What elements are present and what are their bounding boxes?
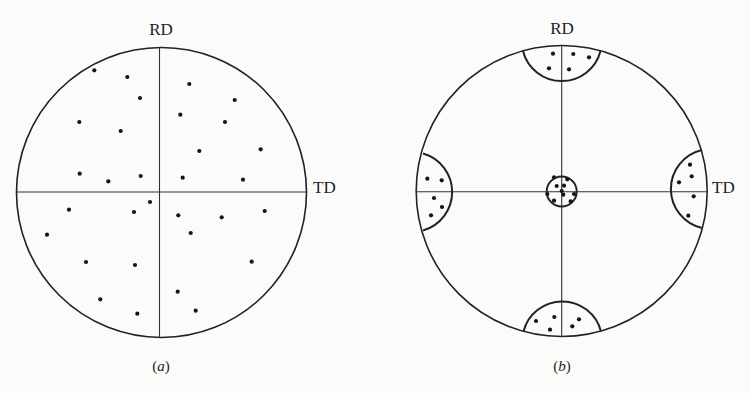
pole-figure-diagram: RD TD (a) RD TD (b) (0, 0, 750, 393)
pole-dot (98, 297, 102, 301)
pole-dot (176, 213, 180, 217)
pole-dot-center (545, 192, 549, 196)
pole-dot-top (567, 67, 571, 71)
pole-dot (133, 263, 137, 267)
caption-b: (b) (553, 358, 571, 375)
pole-dot (84, 260, 88, 264)
pole-dot-left (425, 177, 429, 181)
pole-dot-left (440, 178, 444, 182)
pole-dot (263, 209, 267, 213)
pole-dot-center (561, 193, 565, 197)
pole-dot (189, 231, 193, 235)
pole-dot (132, 210, 136, 214)
pole-dot (178, 113, 182, 117)
pole-dot (125, 75, 129, 79)
pole-dot-bottom (552, 315, 556, 319)
td-label-a: TD (313, 178, 336, 197)
pole-dot-center (552, 199, 556, 203)
pole-figure-b: RD TD (b) (416, 19, 734, 375)
pole-dot-center (569, 199, 573, 203)
caption-a: (a) (152, 358, 170, 375)
pole-dot (92, 68, 96, 72)
pole-dot (119, 129, 123, 133)
pole-dot (67, 208, 71, 212)
pole-dot (45, 233, 49, 237)
td-label-b: TD (712, 178, 735, 197)
pole-dot-bottom (548, 328, 552, 332)
pole-dot (138, 96, 142, 100)
pole-dot-top (551, 52, 555, 56)
caption-b-letter: b (558, 358, 566, 374)
pole-dot-center (562, 184, 566, 188)
pole-dot-left (429, 213, 433, 217)
pole-dot-left (440, 205, 444, 209)
pole-dot-center (560, 189, 564, 193)
pole-dot (223, 120, 227, 124)
pole-dot (148, 200, 152, 204)
pole-dot-center (572, 192, 576, 196)
pole-dot (250, 260, 254, 264)
pole-dot-right (688, 163, 692, 167)
pole-dot (233, 98, 237, 102)
pole-dot-top (571, 52, 575, 56)
caption-a-letter: a (157, 358, 165, 374)
pole-dot-right (690, 174, 694, 178)
pole-dot (78, 172, 82, 176)
pole-dot (194, 309, 198, 313)
pole-dot-right (677, 180, 681, 184)
rd-label-a: RD (149, 20, 173, 39)
pole-dot-top (587, 55, 591, 59)
pole-dot-top (547, 66, 551, 70)
rd-label-b: RD (550, 19, 574, 38)
pole-dot-bottom (577, 317, 581, 321)
pole-dot (241, 178, 245, 182)
pole-dot (197, 149, 201, 153)
pole-dot-center (565, 177, 569, 181)
pole-dot-right (686, 214, 690, 218)
pole-dot-bottom (534, 319, 538, 323)
pole-dot (176, 290, 180, 294)
pole-dot-center (552, 175, 556, 179)
pole-dot (187, 82, 191, 86)
pole-dot (181, 176, 185, 180)
pole-dot (77, 120, 81, 124)
pole-figure-a: RD TD (a) (17, 20, 336, 375)
pole-dot-left (432, 196, 436, 200)
pole-dot-bottom (570, 324, 574, 328)
pole-dot (139, 174, 143, 178)
pole-dot (259, 147, 263, 151)
pole-dot (106, 179, 110, 183)
pole-dot (220, 215, 224, 219)
pole-dot (135, 312, 139, 316)
pole-dot-center (555, 184, 559, 188)
pole-dot-right (692, 194, 696, 198)
